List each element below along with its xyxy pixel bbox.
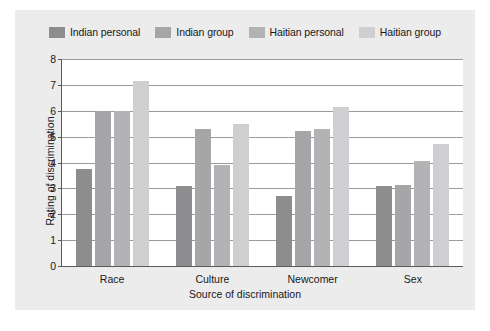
bar-group (162, 59, 262, 266)
bar[interactable] (176, 186, 192, 266)
bar[interactable] (276, 196, 292, 266)
bar[interactable] (114, 111, 130, 266)
x-axis-title: Source of discrimination (15, 288, 475, 300)
bar[interactable] (133, 81, 149, 266)
y-tick-label: 3 (50, 183, 56, 194)
chart-figure: Indian personalIndian groupHaitian perso… (15, 10, 475, 310)
bar[interactable] (76, 169, 92, 266)
bar-group (62, 59, 162, 266)
y-tick-label: 4 (50, 157, 56, 168)
bar[interactable] (95, 111, 111, 266)
bar[interactable] (333, 107, 349, 266)
bar[interactable] (433, 144, 449, 266)
bar[interactable] (233, 124, 249, 266)
legend-swatch-icon (49, 27, 65, 38)
bar[interactable] (414, 161, 430, 266)
y-tick-label: 5 (50, 131, 56, 142)
legend-swatch-icon (359, 27, 375, 38)
legend-label: Haitian group (380, 26, 441, 38)
legend-label: Indian group (176, 26, 233, 38)
bar[interactable] (395, 185, 411, 267)
legend-entry[interactable]: Haitian personal (249, 26, 344, 38)
legend-swatch-icon (249, 27, 265, 38)
bar[interactable] (214, 165, 230, 266)
x-tick-label: Sex (353, 266, 473, 285)
bar[interactable] (376, 186, 392, 266)
bar-groups (62, 59, 463, 266)
chart-legend: Indian personalIndian groupHaitian perso… (15, 22, 475, 42)
bar[interactable] (314, 129, 330, 266)
y-tick-label: 2 (50, 209, 56, 220)
bar-group (263, 59, 363, 266)
y-tick-label: 1 (50, 235, 56, 246)
legend-entry[interactable]: Indian personal (49, 26, 140, 38)
legend-label: Indian personal (70, 26, 140, 38)
y-tick-label: 8 (50, 54, 56, 65)
bar-group (363, 59, 463, 266)
y-tick-label: 7 (50, 80, 56, 91)
bar[interactable] (195, 129, 211, 266)
legend-entry[interactable]: Haitian group (359, 26, 441, 38)
legend-entry[interactable]: Indian group (155, 26, 233, 38)
bar[interactable] (295, 131, 311, 266)
legend-label: Haitian personal (270, 26, 344, 38)
legend-swatch-icon (155, 27, 171, 38)
y-tick-label: 6 (50, 106, 56, 117)
plot-area: 012345678 RaceCultureNewcomerSex (61, 59, 463, 267)
